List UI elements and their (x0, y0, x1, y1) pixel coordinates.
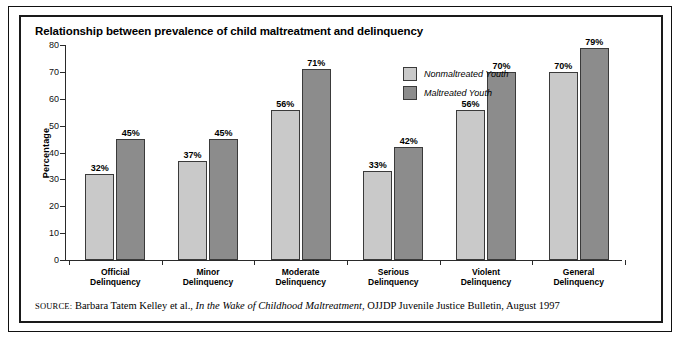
bar-group: 37%45% (178, 45, 238, 260)
y-axis-tick-label: 20 (49, 201, 59, 211)
legend-swatch-icon-maltreated (403, 86, 417, 100)
x-axis-tick (440, 260, 441, 265)
source-note: Source: Barbara Tatem Kelley et al., In … (35, 300, 560, 311)
bar-value-label: 42% (400, 136, 418, 146)
y-axis-tick-label: 80 (49, 40, 59, 50)
bar: 32% (85, 174, 114, 260)
bar-value-label: 71% (307, 58, 325, 68)
bar: 56% (456, 110, 485, 261)
bar: 71% (302, 69, 331, 260)
bar: 42% (394, 147, 423, 260)
bar-group: 32%45% (85, 45, 145, 260)
x-axis-tick (625, 260, 626, 265)
y-axis-tick-label: 0 (54, 255, 59, 265)
x-axis-line (65, 260, 622, 261)
y-axis-tick-label: 50 (49, 121, 59, 131)
bar: 45% (209, 139, 238, 260)
y-axis-tick (60, 233, 65, 234)
bar: 79% (580, 48, 609, 260)
y-axis-tick (60, 99, 65, 100)
y-axis-line (65, 45, 66, 260)
figure-inner-border: Relationship between prevalence of child… (19, 15, 663, 323)
bar-value-label: 79% (585, 37, 603, 47)
bar-value-label: 32% (91, 163, 109, 173)
x-axis-tick (162, 260, 163, 265)
category-label: MinorDelinquency (183, 267, 234, 287)
x-axis-tick (254, 260, 255, 265)
y-axis-tick (60, 260, 65, 261)
y-axis-tick (60, 206, 65, 207)
bar-value-label: 45% (122, 128, 140, 138)
x-axis-tick (69, 260, 70, 265)
x-axis-tick (347, 260, 348, 265)
legend-item-maltreated: Maltreated Youth (403, 86, 563, 100)
y-axis-tick-label: 70 (49, 67, 59, 77)
x-axis-tick (532, 260, 533, 265)
legend-item-nonmaltreated: Nonmaltreated Youth (403, 67, 563, 81)
y-axis-tick-label: 40 (49, 148, 59, 158)
category-label: OfficialDelinquency (90, 267, 141, 287)
category-label: ViolentDelinquency (461, 267, 512, 287)
bar: 45% (116, 139, 145, 260)
source-publication-title: In the Wake of Childhood Maltreatment (196, 300, 362, 311)
category-label: ModerateDelinquency (275, 267, 326, 287)
legend-label-maltreated: Maltreated Youth (424, 88, 492, 98)
bar-value-label: 37% (183, 150, 201, 160)
bar: 33% (363, 171, 392, 260)
y-axis-tick-labels: 01020304050607080 (33, 45, 59, 260)
bar: 56% (271, 110, 300, 261)
legend-label-nonmaltreated: Nonmaltreated Youth (424, 69, 508, 79)
chart-legend: Nonmaltreated Youth Maltreated Youth (403, 67, 563, 105)
source-tag: Source: (35, 301, 72, 311)
chart-title: Relationship between prevalence of child… (35, 25, 423, 37)
category-label: SeriousDelinquency (368, 267, 419, 287)
legend-swatch-icon-nonmaltreated (403, 67, 417, 81)
y-axis-tick (60, 126, 65, 127)
bar-value-label: 45% (214, 128, 232, 138)
y-axis-tick (60, 45, 65, 46)
category-label: GeneralDelinquency (553, 267, 604, 287)
y-axis-tick-label: 30 (49, 174, 59, 184)
y-axis-tick (60, 153, 65, 154)
y-axis-tick-label: 60 (49, 94, 59, 104)
y-axis-tick-label: 10 (49, 228, 59, 238)
y-axis-tick (60, 72, 65, 73)
bar-group: 56%71% (271, 45, 331, 260)
source-publication-info: , OJJDP Juvenile Justice Bulletin, Augus… (362, 300, 560, 311)
y-axis-tick (60, 179, 65, 180)
source-author: Barbara Tatem Kelley et al., (75, 300, 193, 311)
bar-value-label: 56% (276, 99, 294, 109)
bar: 37% (178, 161, 207, 260)
bar-value-label: 33% (369, 160, 387, 170)
figure-outer-border: Relationship between prevalence of child… (8, 6, 672, 332)
